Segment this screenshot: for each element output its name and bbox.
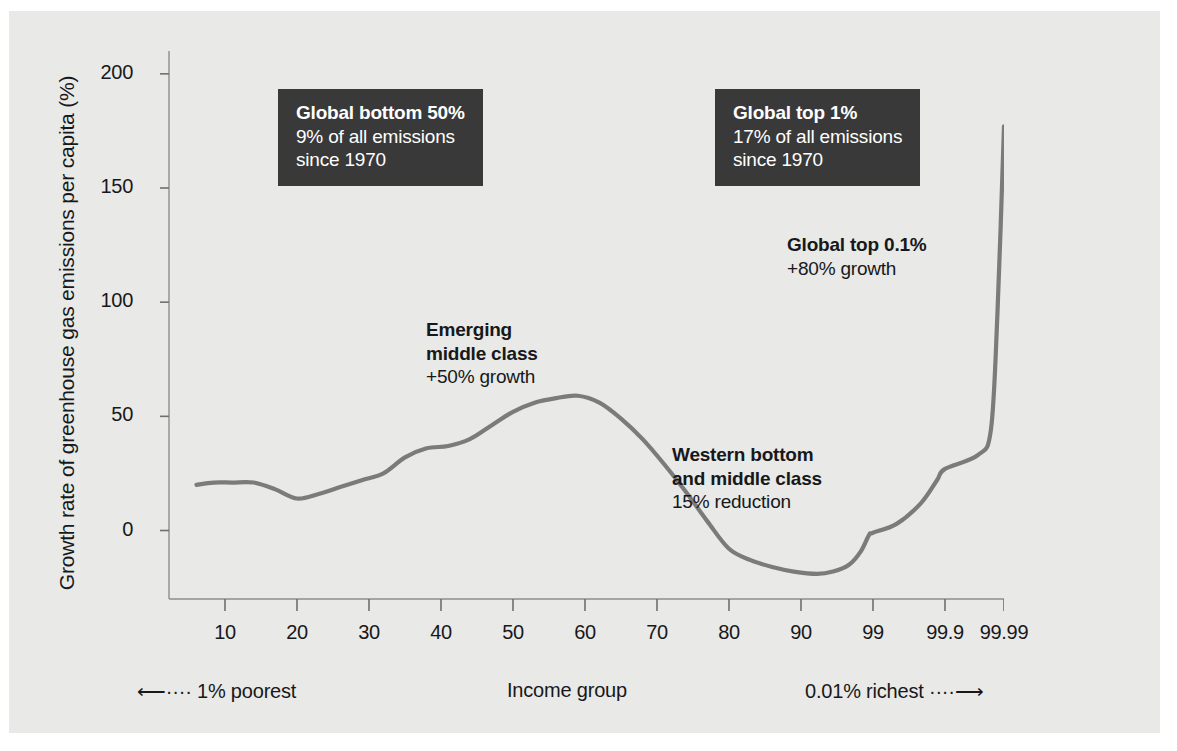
annotation-global-top-0-1: Global top 0.1% +80% growth <box>787 233 927 280</box>
callout-heading: Global bottom 50% <box>296 101 465 125</box>
x-axis-tick-label: 90 <box>761 621 841 644</box>
callout-line-1: 9% of all emissions <box>296 125 465 149</box>
series-line-growth-rate <box>197 126 1005 574</box>
annotation-heading-line-1: Western bottom <box>672 443 822 467</box>
callout-global-bottom-50: Global bottom 50% 9% of all emissions si… <box>278 89 483 186</box>
annotation-emerging-middle-class: Emerging middle class +50% growth <box>426 318 538 389</box>
x-axis-tick-label: 20 <box>257 621 337 644</box>
x-axis-tick-label: 70 <box>617 621 697 644</box>
callout-heading: Global top 1% <box>733 101 902 125</box>
x-axis-tick-label: 10 <box>185 621 265 644</box>
axis-caption-richest: 0.01% richest ····⟶ <box>805 679 984 703</box>
x-axis-tick-label: 60 <box>545 621 625 644</box>
y-axis-tick-label: 150 <box>73 175 133 198</box>
x-axis-tick-label: 50 <box>473 621 553 644</box>
chart-page: Growth rate of greenhouse gas emissions … <box>9 11 1160 733</box>
callout-line-2: since 1970 <box>296 148 465 172</box>
y-axis-tick-label: 200 <box>73 61 133 84</box>
x-axis-tick-label: 99 <box>833 621 913 644</box>
y-axis-tick-label: 100 <box>73 289 133 312</box>
callout-line-1: 17% of all emissions <box>733 125 902 149</box>
annotation-heading-line-1: Global top 0.1% <box>787 233 927 257</box>
callout-global-top-1: Global top 1% 17% of all emissions since… <box>715 89 920 186</box>
annotation-heading-line-1: Emerging <box>426 318 538 342</box>
axis-caption-poorest: ⟵···· 1% poorest <box>137 679 296 703</box>
x-axis-tick-label: 99.99 <box>964 621 1044 644</box>
x-axis-tick-label: 80 <box>689 621 769 644</box>
y-axis-title: Growth rate of greenhouse gas emissions … <box>55 33 79 633</box>
callout-line-2: since 1970 <box>733 148 902 172</box>
annotation-line-1: +80% growth <box>787 257 927 281</box>
annotation-line-1: +50% growth <box>426 365 538 389</box>
annotation-heading-line-2: and middle class <box>672 467 822 491</box>
annotation-line-1: 15% reduction <box>672 490 822 514</box>
annotation-heading-line-2: middle class <box>426 342 538 366</box>
x-axis-title: Income group <box>507 679 627 702</box>
x-axis-tick-label: 30 <box>329 621 409 644</box>
annotation-western-bottom-middle-class: Western bottom and middle class 15% redu… <box>672 443 822 514</box>
x-axis-tick-label: 40 <box>401 621 481 644</box>
y-axis-tick-label: 0 <box>73 518 133 541</box>
y-axis-ticks <box>160 74 169 531</box>
x-axis-ticks <box>225 599 1004 611</box>
y-axis-tick-label: 50 <box>73 403 133 426</box>
